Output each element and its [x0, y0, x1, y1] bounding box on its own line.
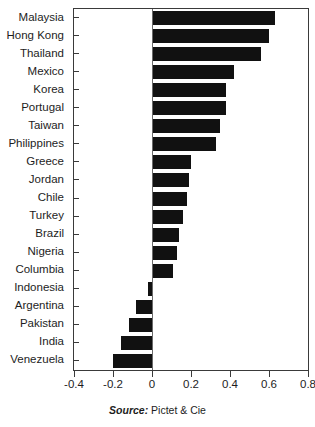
source-label: Source: — [109, 404, 148, 416]
bar — [152, 173, 189, 187]
category-label: Jordan — [29, 170, 64, 189]
bar — [121, 336, 152, 350]
category-label: Hong Kong — [6, 26, 64, 45]
bar — [152, 246, 177, 260]
x-axis-tick — [74, 371, 75, 377]
category-label: Portugal — [21, 98, 64, 117]
x-axis-tick-label: -0.4 — [54, 378, 94, 390]
x-axis-tick-labels: -0.4-0.200.20.40.60.8 — [0, 378, 315, 394]
category-label: Chile — [38, 188, 64, 207]
bar — [152, 210, 183, 224]
bar — [152, 119, 220, 133]
source-name: Pictet & Cie — [151, 404, 206, 416]
category-label: Argentina — [15, 296, 64, 315]
x-axis-tick — [308, 371, 309, 377]
category-label: Venezuela — [10, 350, 64, 369]
category-label: Thailand — [20, 44, 64, 63]
bar — [152, 11, 275, 25]
category-label: Nigeria — [28, 242, 64, 261]
bar — [152, 155, 191, 169]
bar — [152, 83, 226, 97]
bar — [152, 264, 173, 278]
x-axis-tick — [269, 371, 270, 377]
category-label: Brazil — [35, 224, 64, 243]
x-axis-tick — [152, 371, 153, 377]
category-label: India — [39, 332, 64, 351]
category-label: Turkey — [29, 206, 64, 225]
x-axis-tick-label: 0.6 — [249, 378, 289, 390]
y-axis-category-labels: MalaysiaHong KongThailandMexicoKoreaPort… — [0, 8, 73, 371]
bar — [129, 318, 152, 332]
x-axis-tick — [230, 371, 231, 377]
bar — [152, 228, 179, 242]
x-axis-tick — [191, 371, 192, 377]
category-label: Greece — [26, 152, 64, 171]
bar — [152, 101, 226, 115]
category-label: Taiwan — [28, 116, 64, 135]
bar — [152, 137, 216, 151]
bar — [152, 65, 234, 79]
bar — [136, 300, 152, 314]
x-axis-tick-label: 0.4 — [210, 378, 250, 390]
x-axis-tick — [113, 371, 114, 377]
chart-figure: MalaysiaHong KongThailandMexicoKoreaPort… — [0, 0, 315, 427]
category-label: Pakistan — [20, 314, 64, 333]
category-label: Korea — [33, 80, 64, 99]
bar — [152, 47, 261, 61]
x-axis-ticks — [73, 371, 309, 377]
category-label: Malaysia — [19, 8, 64, 27]
category-label: Indonesia — [14, 278, 64, 297]
category-label: Columbia — [15, 260, 64, 279]
x-axis-tick-label: 0.8 — [288, 378, 315, 390]
category-label: Mexico — [28, 62, 64, 81]
x-axis-tick-label: -0.2 — [93, 378, 133, 390]
x-axis-tick-label: 0.2 — [171, 378, 211, 390]
source-caption: Source: Pictet & Cie — [0, 404, 315, 416]
category-label: Philippines — [8, 134, 64, 153]
zero-reference-line — [152, 9, 153, 370]
x-axis-tick-label: 0 — [132, 378, 172, 390]
bar-series — [74, 9, 308, 370]
bar — [113, 354, 152, 368]
bar — [152, 192, 187, 206]
bar — [152, 29, 269, 43]
